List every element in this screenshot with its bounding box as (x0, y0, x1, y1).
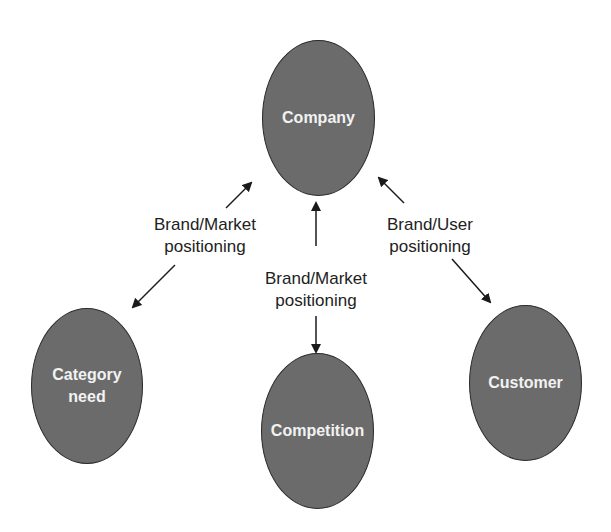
node-category-need-label: Category need (52, 364, 121, 408)
arrow-to-company-left (226, 183, 251, 208)
arrow-to-company-right (379, 178, 404, 203)
node-customer-label: Customer (488, 372, 563, 394)
edge-label-competition: Brand/Market positioning (258, 268, 374, 312)
node-customer: Customer (469, 305, 582, 461)
node-company: Company (262, 40, 375, 196)
edge-label-category: Brand/Market positioning (150, 214, 260, 258)
arrow-to-category-need (133, 265, 175, 307)
edge-label-customer: Brand/User positioning (380, 214, 480, 258)
node-competition-label: Competition (271, 420, 364, 442)
node-category-need: Category need (31, 308, 143, 464)
node-company-label: Company (282, 107, 355, 129)
node-competition: Competition (261, 353, 374, 509)
arrow-to-customer (452, 259, 490, 302)
